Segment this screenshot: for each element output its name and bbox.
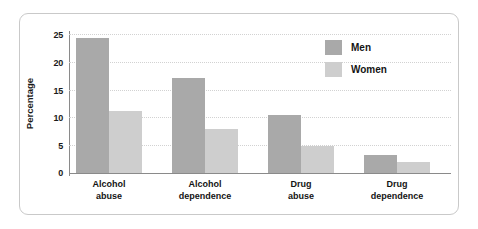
bar-women[interactable] <box>301 146 334 173</box>
legend-item-women[interactable]: Women <box>325 58 387 80</box>
y-tick-label: 20 <box>53 58 63 68</box>
legend-swatch-men-icon <box>325 40 342 55</box>
y-tick-label: 15 <box>53 86 63 96</box>
bar-men[interactable] <box>76 38 109 173</box>
category-label-line2: dependence <box>337 191 457 203</box>
x-axis-line <box>69 173 451 174</box>
category-label-line1: Drug <box>337 179 457 191</box>
legend-swatch-women-icon <box>325 62 342 77</box>
y-tick-label: 25 <box>53 30 63 40</box>
legend-label-women: Women <box>351 64 387 75</box>
legend-label-men: Men <box>351 42 371 53</box>
gridline-15: 15 <box>69 90 451 91</box>
y-tick-label: 0 <box>58 168 63 178</box>
gridline-25: 25 <box>69 34 451 35</box>
chart-figure: 25 20 15 10 5 0 Alcohol abuse <box>19 13 459 215</box>
bar-men[interactable] <box>364 155 397 173</box>
gridline-20: 20 <box>69 62 451 63</box>
y-axis-line <box>69 31 70 176</box>
bar-women[interactable] <box>397 162 430 173</box>
plot-area: 25 20 15 10 5 0 Alcohol abuse <box>69 34 451 173</box>
y-tick-label: 5 <box>58 141 63 151</box>
bar-women[interactable] <box>205 129 238 173</box>
category-label-drug-dependence: Drug dependence <box>337 179 457 202</box>
bar-women[interactable] <box>109 111 142 173</box>
legend-item-men[interactable]: Men <box>325 36 387 58</box>
bar-men[interactable] <box>268 115 301 173</box>
y-axis-title: Percentage <box>24 34 36 173</box>
y-tick-label: 10 <box>53 113 63 123</box>
chart-legend: Men Women <box>325 36 387 80</box>
bar-men[interactable] <box>172 78 205 173</box>
